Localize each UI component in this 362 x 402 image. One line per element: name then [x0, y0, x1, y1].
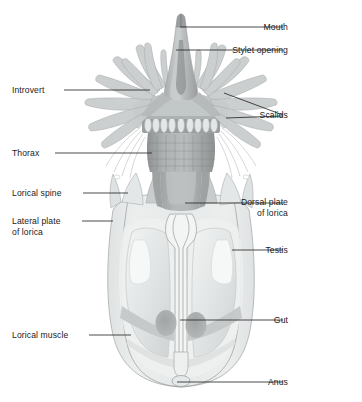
- anus-opening: [172, 376, 190, 387]
- label-dorsal-plate-line2: of lorica: [257, 208, 288, 218]
- hindgut: [174, 352, 188, 378]
- label-mouth: Mouth: [264, 22, 289, 32]
- spine-base-pore-left: [114, 175, 120, 179]
- label-scalids: Scalids: [260, 110, 288, 120]
- label-lorical-spine: Lorical spine: [12, 188, 62, 198]
- gut-mass-left: [156, 310, 177, 336]
- label-lorical-muscle: Lorical muscle: [12, 330, 68, 340]
- testis-right-lobe: [211, 240, 232, 284]
- label-testis: Testis: [265, 245, 288, 255]
- dorsal-plate-of-lorica: [152, 168, 210, 211]
- loriciferan-diagram-svg: Introvert Thorax Lorical spine Lateral p…: [0, 0, 362, 402]
- label-anus: Anus: [268, 377, 288, 387]
- label-dorsal-plate: Dorsal plate: [241, 197, 288, 207]
- label-stylet-opening: Stylet opening: [232, 45, 288, 55]
- testis-left-lobe: [129, 240, 150, 284]
- placid-plates: [145, 117, 218, 132]
- label-lateral-plate-line2: of lorica: [12, 227, 43, 237]
- label-introvert: Introvert: [12, 85, 45, 95]
- spine-base-pore-right: [243, 175, 249, 179]
- label-thorax: Thorax: [12, 148, 40, 158]
- label-lateral-plate: Lateral plate: [12, 216, 61, 226]
- lorica-body: [108, 193, 255, 387]
- label-gut: Gut: [274, 315, 289, 325]
- anatomical-figure: Introvert Thorax Lorical spine Lateral p…: [0, 0, 362, 402]
- gut-mass-right: [186, 312, 207, 338]
